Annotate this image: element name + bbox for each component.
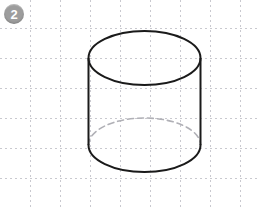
step-number-badge: 2 xyxy=(4,4,24,24)
cylinder-hidden-back-arc xyxy=(89,118,201,145)
step-number-label: 2 xyxy=(10,8,17,21)
cylinder-drawing xyxy=(0,0,257,208)
cylinder-top-ellipse xyxy=(89,31,201,85)
cylinder-bottom-front-arc xyxy=(89,145,201,172)
figure-canvas: 2 xyxy=(0,0,257,208)
